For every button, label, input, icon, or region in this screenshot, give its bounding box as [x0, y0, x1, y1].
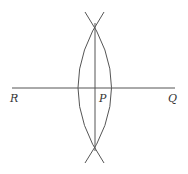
- label-q: Q: [168, 92, 177, 105]
- label-p: P: [98, 92, 107, 105]
- label-r: R: [9, 92, 18, 105]
- construction-diagram: R P Q: [0, 0, 188, 174]
